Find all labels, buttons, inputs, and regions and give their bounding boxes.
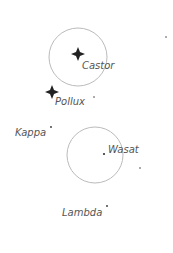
star-label-castor: Castor: [82, 60, 115, 71]
star-label-kappa: Kappa: [15, 127, 46, 138]
wasat-highlight-ring: [67, 127, 123, 183]
star-lambda[interactable]: Lambda: [62, 205, 108, 218]
star-kappa[interactable]: Kappa: [15, 126, 52, 138]
star-chart: Castor Pollux Kappa Wasat Lambda: [0, 0, 173, 253]
faint-star-icon: [50, 126, 52, 128]
star-pollux[interactable]: Pollux: [45, 85, 85, 107]
bright-star-icon: [71, 47, 85, 61]
faint-star-icon: [106, 205, 108, 207]
star-wasat[interactable]: Wasat: [103, 144, 140, 155]
star-label-wasat: Wasat: [108, 144, 140, 155]
star-label-pollux: Pollux: [55, 96, 85, 107]
faint-star-icon: [103, 153, 105, 155]
unlabeled-star: [93, 96, 95, 98]
star-label-lambda: Lambda: [62, 207, 102, 218]
unlabeled-star: [139, 167, 141, 169]
unlabeled-star: [165, 36, 167, 38]
star-castor[interactable]: Castor: [71, 47, 115, 71]
